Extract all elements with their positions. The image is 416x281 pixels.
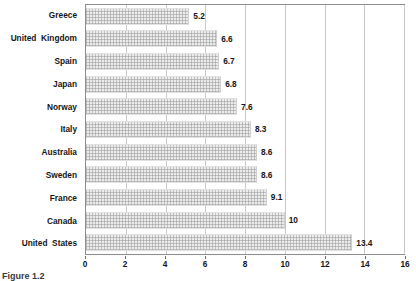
category-label: Japan	[0, 72, 81, 95]
category-label: France	[0, 187, 81, 210]
bar-row: 6.8	[86, 73, 404, 96]
category-label: Sweden	[0, 164, 81, 187]
category-label: Italy	[0, 118, 81, 141]
bar	[86, 189, 267, 206]
bar-row: 10	[86, 209, 404, 232]
tick-label: 12	[320, 260, 329, 268]
tick-label: 14	[360, 260, 369, 268]
category-label: United Kingdom	[0, 27, 81, 50]
bar-value-label: 10	[285, 216, 298, 224]
bar-row: 8.6	[86, 163, 404, 186]
bar-row: 13.4	[86, 231, 404, 254]
bar-row: 8.3	[86, 118, 404, 141]
figure-caption: Figure 1.2	[2, 272, 45, 281]
tick-label: 6	[203, 260, 208, 268]
category-label: Australia	[0, 141, 81, 164]
category-label: Norway	[0, 95, 81, 118]
tick-label: 4	[163, 260, 168, 268]
tick-label: 0	[83, 260, 88, 268]
bar-value-label: 6.8	[221, 80, 237, 88]
bar-value-label: 8.6	[257, 148, 273, 156]
plot-area: 5.26.66.76.87.68.38.68.69.11013.4	[85, 4, 405, 255]
bar-value-label: 7.6	[237, 103, 253, 111]
bar-value-label: 6.6	[217, 35, 233, 43]
category-axis: GreeceUnited KingdomSpainJapanNorwayItal…	[0, 4, 81, 255]
bars-layer: 5.26.66.76.87.68.38.68.69.11013.4	[86, 5, 404, 254]
tick-label: 2	[123, 260, 128, 268]
bar-value-label: 13.4	[352, 239, 372, 247]
value-axis: 0246810121416	[85, 256, 405, 270]
bar-row: 7.6	[86, 96, 404, 119]
bar-value-label: 8.3	[251, 125, 267, 133]
bar-row: 8.6	[86, 141, 404, 164]
bar	[86, 98, 237, 115]
bar-row: 6.6	[86, 28, 404, 51]
bar	[86, 144, 257, 161]
bar	[86, 166, 257, 183]
bar	[86, 212, 285, 229]
bar-value-label: 6.7	[219, 57, 235, 65]
tick-label: 10	[280, 260, 289, 268]
tick-label: 8	[243, 260, 248, 268]
category-label: Greece	[0, 4, 81, 27]
gridline	[404, 5, 405, 254]
bar	[86, 234, 352, 251]
bar-value-label: 9.1	[267, 193, 283, 201]
bar-row: 9.1	[86, 186, 404, 209]
bar-row: 6.7	[86, 50, 404, 73]
plot-inner: 5.26.66.76.87.68.38.68.69.11013.4	[86, 5, 404, 254]
bar-value-label: 5.2	[189, 12, 205, 20]
bar	[86, 8, 189, 25]
horizontal-bar-chart: GreeceUnited KingdomSpainJapanNorwayItal…	[0, 0, 416, 281]
bar	[86, 53, 219, 70]
category-label: Spain	[0, 50, 81, 73]
bar-value-label: 8.6	[257, 171, 273, 179]
category-label: Canada	[0, 209, 81, 232]
bar	[86, 76, 221, 93]
bar	[86, 30, 217, 47]
bar-row: 5.2	[86, 5, 404, 28]
category-label: United States	[0, 232, 81, 255]
bar	[86, 121, 251, 138]
tick-label: 16	[400, 260, 409, 268]
